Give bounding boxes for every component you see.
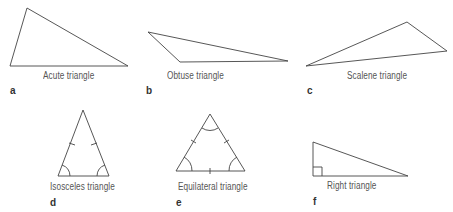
figure-letter-a: a — [10, 85, 16, 96]
acute-triangle-label: Acute triangle — [43, 70, 94, 81]
obtuse-triangle-shape — [148, 32, 288, 62]
figure-letter-f: f — [313, 196, 316, 207]
figure-letter-d: d — [50, 197, 56, 208]
scalene-triangle-label: Scalene triangle — [347, 70, 407, 81]
figure-letter-e: e — [176, 197, 182, 208]
figure-letter-b: b — [146, 85, 152, 96]
right-triangle-label: Right triangle — [327, 180, 376, 191]
scalene-triangle-shape — [306, 22, 447, 66]
figure-letter-c: c — [307, 85, 313, 96]
acute-triangle-shape — [10, 8, 128, 66]
isosceles-triangle-label: Isosceles triangle — [50, 181, 115, 192]
obtuse-triangle-label: Obtuse triangle — [167, 70, 224, 81]
isosceles-triangle-shape — [58, 110, 109, 176]
equilateral-triangle-shape — [176, 114, 245, 174]
equilateral-triangle-label: Equilateral triangle — [178, 181, 248, 192]
right-triangle-shape — [313, 142, 408, 176]
